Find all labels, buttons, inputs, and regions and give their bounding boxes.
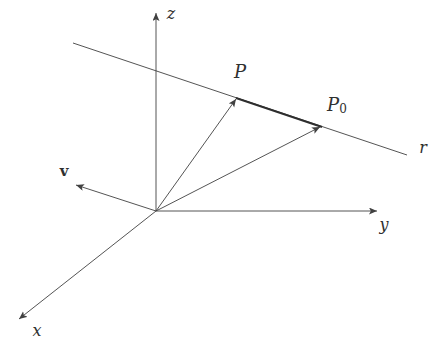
x-axis <box>19 211 156 319</box>
label-P: P <box>233 61 247 82</box>
vector-v <box>76 185 156 211</box>
label-x: x <box>32 321 41 340</box>
segment-P-P0 <box>236 98 322 127</box>
label-P0-subscript: 0 <box>339 102 347 116</box>
vector-to-P0 <box>156 127 320 211</box>
figure-canvas: zyxrPP0v <box>0 0 437 347</box>
label-y: y <box>378 215 389 234</box>
label-P0: P0 <box>326 94 347 116</box>
vector-line-diagram: zyxrPP0v <box>0 0 437 347</box>
label-v: v <box>59 162 70 180</box>
label-r: r <box>419 138 428 157</box>
vector-to-P <box>156 99 236 211</box>
label-z: z <box>166 4 176 23</box>
